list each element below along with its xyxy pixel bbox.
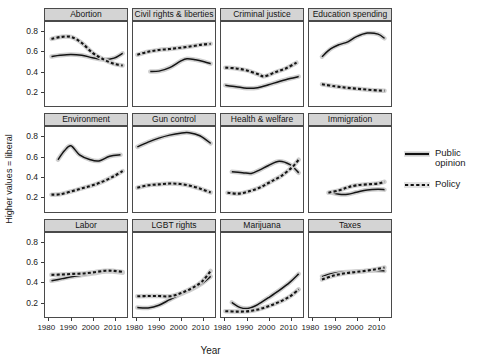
x-tick-label: 2010 — [192, 323, 210, 332]
facet-plot-area — [220, 126, 304, 212]
y-tick-label: 0.8 — [16, 132, 38, 140]
facet-plot-area — [220, 232, 304, 318]
y-tick-label: 0.4 — [16, 173, 38, 181]
facet-strip-label: Gun control — [132, 113, 216, 126]
x-tick-mark — [357, 318, 358, 321]
y-tick-label: 0.4 — [16, 278, 38, 286]
facet-plot-area — [44, 232, 128, 318]
x-tick-mark — [269, 318, 270, 321]
x-tick-mark — [312, 318, 313, 321]
x-tick-label: 2000 — [346, 323, 364, 332]
confidence-band — [51, 36, 122, 65]
facet-plot-area — [44, 21, 128, 107]
x-tick-label: 2010 — [368, 323, 386, 332]
x-tick-mark — [335, 318, 336, 321]
facet-panel-environment: Environment — [44, 113, 128, 212]
x-tick-label: 2000 — [82, 323, 100, 332]
figure-panel-chart: Higher values = liberal Abortion0.20.40.… — [0, 0, 481, 358]
y-tick-mark — [41, 157, 44, 158]
facet-strip-label: Civil rights & liberties — [132, 8, 216, 21]
y-tick-mark — [41, 72, 44, 73]
facet-strip-label: Marijuana — [220, 219, 304, 232]
facet-panel-health-welfare: Health & welfare — [220, 113, 304, 212]
legend-item-policy[interactable]: Policy — [404, 179, 481, 191]
facet-strip-label: Criminal justice — [220, 8, 304, 21]
facet-strip-label: Labor — [44, 219, 128, 232]
facet-plot-area — [308, 232, 392, 318]
series-line-public-opinion — [232, 274, 299, 309]
legend-label-public-opinion: Publicopinion — [435, 148, 481, 168]
y-tick-mark — [41, 282, 44, 283]
series-line-public-opinion — [58, 146, 121, 161]
facet-panel-immigration: Immigration — [308, 113, 392, 212]
x-tick-mark — [159, 318, 160, 321]
dashed-line-key-icon — [404, 179, 430, 191]
facet-strip-label: LGBT rights — [132, 219, 216, 232]
x-tick-label: 1980 — [37, 323, 55, 332]
x-tick-label: 2010 — [104, 323, 122, 332]
facet-panel-criminal-justice: Criminal justice — [220, 8, 304, 107]
x-tick-mark — [224, 318, 225, 321]
x-tick-label: 1980 — [213, 323, 231, 332]
y-tick-label: 0.6 — [16, 258, 38, 266]
facet-plot-area — [44, 126, 128, 212]
facet-panel-marijuana: Marijuana — [220, 219, 304, 318]
x-tick-mark — [247, 318, 248, 321]
y-tick-mark — [41, 92, 44, 93]
y-tick-mark — [41, 31, 44, 32]
facet-plot-area — [132, 21, 216, 107]
x-tick-mark — [379, 318, 380, 321]
y-tick-label: 0.2 — [16, 88, 38, 96]
confidence-band — [225, 63, 296, 77]
x-tick-mark — [115, 318, 116, 321]
x-tick-mark — [93, 318, 94, 321]
series-line-policy — [137, 271, 210, 297]
x-tick-mark — [181, 318, 182, 321]
facet-strip-label: Taxes — [308, 219, 392, 232]
legend: Publicopinion Policy — [404, 148, 481, 202]
y-tick-mark — [41, 136, 44, 137]
confidence-band — [322, 33, 385, 57]
legend-item-public-opinion[interactable]: Publicopinion — [404, 148, 481, 168]
x-tick-label: 1990 — [148, 323, 166, 332]
y-axis-title: Higher values = liberal — [2, 0, 16, 358]
facet-strip-label: Environment — [44, 113, 128, 126]
facet-panel-lgbt-rights: LGBT rights — [132, 219, 216, 318]
x-tick-mark — [48, 318, 49, 321]
x-tick-label: 2000 — [170, 323, 188, 332]
x-tick-label: 1990 — [60, 323, 78, 332]
x-tick-label: 1980 — [125, 323, 143, 332]
facet-strip-label: Immigration — [308, 113, 392, 126]
x-tick-mark — [203, 318, 204, 321]
facet-strip-label: Health & welfare — [220, 113, 304, 126]
y-tick-label: 0.6 — [16, 47, 38, 55]
y-tick-mark — [41, 197, 44, 198]
confidence-band — [232, 274, 299, 309]
y-tick-label: 0.2 — [16, 193, 38, 201]
facet-plot-area — [308, 126, 392, 212]
y-tick-label: 0.2 — [16, 299, 38, 307]
legend-label-policy: Policy — [435, 179, 481, 189]
x-tick-mark — [136, 318, 137, 321]
facet-panel-abortion: Abortion — [44, 8, 128, 107]
solid-line-key-icon — [404, 148, 430, 160]
x-tick-label: 2000 — [258, 323, 276, 332]
facet-strip-label: Abortion — [44, 8, 128, 21]
confidence-band — [51, 171, 122, 195]
x-tick-mark — [291, 318, 292, 321]
y-tick-label: 0.6 — [16, 153, 38, 161]
y-tick-mark — [41, 51, 44, 52]
x-axis-title: Year — [0, 345, 481, 356]
facet-plot-area — [220, 21, 304, 107]
facet-plot-area — [132, 232, 216, 318]
facet-panel-taxes: Taxes — [308, 219, 392, 318]
y-tick-mark — [41, 242, 44, 243]
facet-panel-civil-rights-liberties: Civil rights & liberties — [132, 8, 216, 107]
x-tick-mark — [71, 318, 72, 321]
y-tick-mark — [41, 262, 44, 263]
facet-panel-education-spending: Education spending — [308, 8, 392, 107]
x-tick-label: 1980 — [301, 323, 319, 332]
x-tick-label: 2010 — [280, 323, 298, 332]
y-tick-label: 0.4 — [16, 68, 38, 76]
facet-panel-labor: Labor — [44, 219, 128, 318]
